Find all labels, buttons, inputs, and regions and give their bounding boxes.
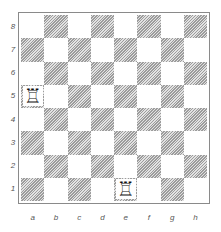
square-c8[interactable] (68, 15, 91, 38)
rank-label-5: 5 (8, 91, 18, 100)
file-label-b: b (44, 213, 67, 222)
square-e8[interactable] (114, 15, 137, 38)
square-a7[interactable] (21, 38, 44, 61)
file-label-g: g (161, 213, 184, 222)
square-h6[interactable] (184, 62, 207, 85)
square-h2[interactable] (184, 155, 207, 178)
square-b1[interactable] (44, 178, 67, 201)
square-d1[interactable] (91, 178, 114, 201)
square-f1[interactable] (137, 178, 160, 201)
square-d4[interactable] (91, 108, 114, 131)
square-d7[interactable] (91, 38, 114, 61)
square-g6[interactable] (161, 62, 184, 85)
square-a4[interactable] (21, 108, 44, 131)
square-h3[interactable] (184, 131, 207, 154)
square-e6[interactable] (114, 62, 137, 85)
square-e7[interactable] (114, 38, 137, 61)
square-e5[interactable] (114, 85, 137, 108)
square-b2[interactable] (44, 155, 67, 178)
square-a8[interactable] (21, 15, 44, 38)
square-g8[interactable] (161, 15, 184, 38)
file-label-e: e (114, 213, 137, 222)
square-d2[interactable] (91, 155, 114, 178)
square-c2[interactable] (68, 155, 91, 178)
square-f5[interactable] (137, 85, 160, 108)
square-a5[interactable]: ♖ (21, 85, 44, 108)
square-c3[interactable] (68, 131, 91, 154)
square-b4[interactable] (44, 108, 67, 131)
square-f8[interactable] (137, 15, 160, 38)
square-g1[interactable] (161, 178, 184, 201)
square-b8[interactable] (44, 15, 67, 38)
file-label-f: f (137, 213, 160, 222)
square-f4[interactable] (137, 108, 160, 131)
square-f7[interactable] (137, 38, 160, 61)
square-b6[interactable] (44, 62, 67, 85)
square-h5[interactable] (184, 85, 207, 108)
square-g3[interactable] (161, 131, 184, 154)
square-a1[interactable] (21, 178, 44, 201)
square-h8[interactable] (184, 15, 207, 38)
square-h4[interactable] (184, 108, 207, 131)
square-g5[interactable] (161, 85, 184, 108)
square-g2[interactable] (161, 155, 184, 178)
file-label-h: h (184, 213, 207, 222)
square-a2[interactable] (21, 155, 44, 178)
white-rook-icon[interactable]: ♖ (23, 86, 43, 106)
square-b7[interactable] (44, 38, 67, 61)
square-h7[interactable] (184, 38, 207, 61)
chess-board: ♖♖ (21, 15, 207, 201)
white-rook-icon[interactable]: ♖ (116, 179, 136, 199)
square-f3[interactable] (137, 131, 160, 154)
rank-label-7: 7 (8, 45, 18, 54)
square-c5[interactable] (68, 85, 91, 108)
square-a6[interactable] (21, 62, 44, 85)
square-c7[interactable] (68, 38, 91, 61)
file-label-d: d (91, 213, 114, 222)
rank-label-6: 6 (8, 68, 18, 77)
square-c4[interactable] (68, 108, 91, 131)
rank-label-3: 3 (8, 138, 18, 147)
rank-label-4: 4 (8, 115, 18, 124)
square-c6[interactable] (68, 62, 91, 85)
square-e3[interactable] (114, 131, 137, 154)
square-d8[interactable] (91, 15, 114, 38)
square-f6[interactable] (137, 62, 160, 85)
file-label-c: c (68, 213, 91, 222)
square-d3[interactable] (91, 131, 114, 154)
square-g7[interactable] (161, 38, 184, 61)
rank-label-2: 2 (8, 161, 18, 170)
square-b3[interactable] (44, 131, 67, 154)
file-label-a: a (21, 213, 44, 222)
square-c1[interactable] (68, 178, 91, 201)
square-d6[interactable] (91, 62, 114, 85)
square-e2[interactable] (114, 155, 137, 178)
square-h1[interactable] (184, 178, 207, 201)
rank-label-1: 1 (8, 184, 18, 193)
square-f2[interactable] (137, 155, 160, 178)
square-a3[interactable] (21, 131, 44, 154)
square-g4[interactable] (161, 108, 184, 131)
square-b5[interactable] (44, 85, 67, 108)
square-e1[interactable]: ♖ (114, 178, 137, 201)
rank-label-8: 8 (8, 22, 18, 31)
square-d5[interactable] (91, 85, 114, 108)
square-e4[interactable] (114, 108, 137, 131)
